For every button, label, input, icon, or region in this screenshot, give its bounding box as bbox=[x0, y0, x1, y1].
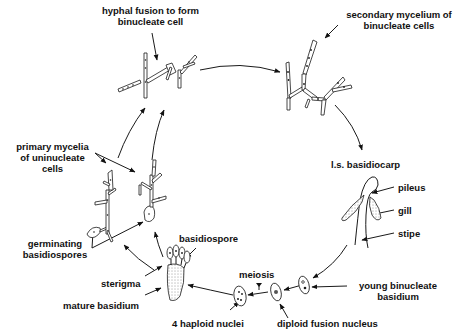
life-cycle-diagram: hyphal fusion to form binucleate cell se… bbox=[0, 0, 461, 336]
label-sterigma: sterigma bbox=[101, 278, 141, 289]
label-stipe: stipe bbox=[398, 228, 420, 239]
hyphal-fusion-mycelium bbox=[118, 53, 197, 98]
label-primary-mycelia-line3: cells bbox=[10, 163, 95, 174]
arrow-mature-to-germinating-1 bbox=[124, 245, 154, 270]
diploid-fusion-cell bbox=[269, 282, 283, 302]
label-diploid-fusion-nucleus: diploid fusion nucleus bbox=[277, 318, 378, 329]
arrow-mature-to-germinating-2 bbox=[155, 232, 163, 257]
label-basidiocarp: l.s. basidiocarp bbox=[331, 159, 400, 170]
arrow-primary-to-fusion-1 bbox=[118, 108, 145, 158]
arrow-haploid-to-mature bbox=[188, 285, 233, 295]
arrow-basidiocarp-to-young bbox=[313, 245, 347, 278]
haploid-nuclei-cell bbox=[232, 285, 247, 307]
label-young-basidium-line1: young binucleate bbox=[348, 280, 448, 291]
label-secondary-mycelium-line2: binucleate cells bbox=[340, 20, 458, 31]
secondary-mycelium bbox=[286, 40, 352, 115]
label-meiosis: meiosis bbox=[239, 269, 274, 280]
primary-mycelia bbox=[87, 160, 166, 242]
arrow-diploid-to-haploid bbox=[248, 292, 268, 295]
young-basidium bbox=[297, 275, 311, 295]
label-haploid-nuclei: 4 haploid nuclei bbox=[172, 318, 244, 329]
label-primary-mycelia-line1: primary mycelia bbox=[10, 141, 95, 152]
arrow-secondary-to-basidiocarp bbox=[335, 105, 362, 150]
gill-left bbox=[342, 195, 364, 221]
arrow-primary-to-fusion-2 bbox=[152, 110, 164, 160]
gill-right bbox=[369, 197, 381, 220]
label-germinating-line1: germinating bbox=[18, 238, 92, 249]
label-young-basidium-line2: basidium bbox=[348, 291, 448, 302]
arrow-fusion-to-secondary bbox=[200, 65, 280, 72]
label-pileus: pileus bbox=[398, 182, 425, 193]
label-secondary-mycelium-line1: secondary mycelium of bbox=[340, 9, 458, 20]
label-hyphal-fusion-line1: hyphal fusion to form bbox=[88, 5, 213, 16]
label-primary-mycelia: primary mycelia of uninucleate cells bbox=[10, 141, 95, 174]
label-hyphal-fusion: hyphal fusion to form binucleate cell bbox=[88, 5, 213, 27]
label-secondary-mycelium: secondary mycelium of binucleate cells bbox=[340, 9, 458, 31]
label-germinating-line2: basidiospores bbox=[18, 249, 92, 260]
label-primary-mycelia-line2: of uninucleate bbox=[10, 152, 95, 163]
label-germinating-basidiospores: germinating basidiospores bbox=[18, 238, 92, 260]
mature-basidium bbox=[167, 245, 190, 301]
label-mature-basidium: mature basidium bbox=[63, 300, 139, 311]
label-gill: gill bbox=[398, 205, 412, 216]
label-hyphal-fusion-line2: binucleate cell bbox=[88, 16, 213, 27]
label-basidiospore: basidiospore bbox=[179, 233, 238, 244]
label-young-basidium: young binucleate basidium bbox=[348, 280, 448, 302]
